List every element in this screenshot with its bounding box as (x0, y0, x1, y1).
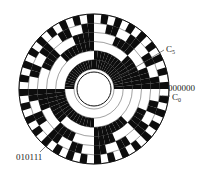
track-segment (150, 83, 159, 89)
track-segment (141, 83, 150, 89)
track-segment (88, 32, 94, 41)
label-c5: C5 (166, 45, 175, 55)
track-segment (94, 155, 101, 164)
center-hole (77, 72, 111, 106)
track-segment (28, 89, 37, 95)
label-c5-sub: 5 (172, 49, 175, 55)
label-c0-sub: 0 (178, 97, 181, 103)
track-segment (19, 89, 28, 96)
label-c0: C0 (172, 93, 181, 103)
track-segment (37, 89, 46, 95)
track-segment (94, 136, 100, 145)
track-segment (94, 145, 100, 154)
track-segment (88, 23, 94, 32)
track-segment (87, 14, 94, 23)
label-sample-code: 010111 (16, 153, 42, 162)
